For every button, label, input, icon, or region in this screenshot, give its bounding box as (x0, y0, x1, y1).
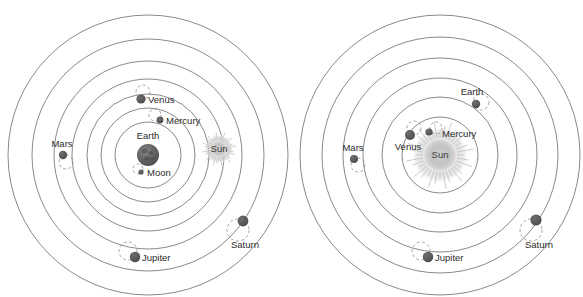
label-earth: Earth (461, 86, 484, 97)
planet-disc-jupiter (130, 252, 140, 262)
body-venus: Venus (395, 121, 422, 152)
solar-system-models-figure: EarthMoonSunMercuryVenusMarsJupiterSatur… (0, 0, 583, 297)
models-group: EarthMoonSunMercuryVenusMarsJupiterSatur… (8, 15, 580, 295)
body-jupiter: Jupiter (412, 242, 464, 263)
label-mars: Mars (51, 138, 72, 149)
planet-disc-mercury (157, 117, 164, 124)
label-sun: Sun (432, 149, 449, 160)
planet-disc-moon (138, 169, 143, 174)
planet-disc-venus (405, 130, 415, 140)
planet-disc-saturn (530, 214, 541, 225)
label-mercury: Mercury (442, 128, 477, 139)
body-mars: Mars (342, 142, 365, 172)
ptolemaic-geocentric-diagram: EarthMoonSunMercuryVenusMarsJupiterSatur… (8, 15, 288, 295)
planet-disc-mercury (425, 128, 432, 135)
label-jupiter: Jupiter (435, 252, 464, 263)
earth-landmass (148, 151, 153, 155)
planet-disc-jupiter (423, 252, 433, 262)
planet-disc-saturn (238, 216, 249, 227)
label-venus: Venus (395, 141, 422, 152)
label-saturn: Saturn (525, 239, 553, 250)
earth-globe (137, 144, 159, 166)
body-saturn: Saturn (227, 216, 259, 250)
label-earth: Earth (137, 130, 160, 141)
label-saturn: Saturn (231, 239, 259, 250)
body-moon: Moon (133, 164, 171, 178)
body-venus: Venus (136, 85, 175, 105)
label-sun: Sun (211, 143, 228, 154)
label-mars: Mars (342, 142, 363, 153)
body-earth: Earth (461, 86, 489, 110)
body-sun: Sun (202, 132, 236, 166)
earth-landmass (150, 158, 154, 161)
label-moon: Moon (147, 167, 171, 178)
label-venus: Venus (148, 94, 175, 105)
planet-disc-earth (472, 100, 480, 108)
planet-disc-mars (59, 151, 67, 159)
planet-disc-mars (350, 155, 358, 163)
earth-landmass (144, 156, 150, 160)
body-saturn: Saturn (520, 214, 553, 250)
label-mercury: Mercury (166, 115, 201, 126)
body-earth: Earth (137, 130, 160, 166)
planet-disc-venus (136, 94, 145, 103)
copernican-heliocentric-diagram: SunMercuryVenusEarthMarsJupiterSaturn (300, 15, 580, 295)
earth-landmass (141, 149, 147, 154)
label-jupiter: Jupiter (142, 252, 171, 263)
diagram-canvas: EarthMoonSunMercuryVenusMarsJupiterSatur… (0, 0, 583, 297)
body-jupiter: Jupiter (119, 242, 171, 263)
